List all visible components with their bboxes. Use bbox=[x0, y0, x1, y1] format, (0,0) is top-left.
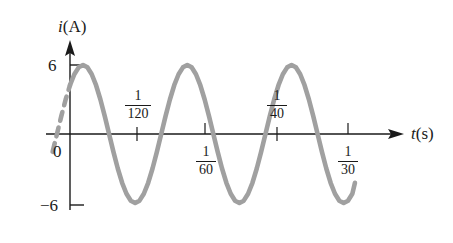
x-tick-label-1-30-numerator: 1 bbox=[338, 145, 358, 160]
x-tick-label-1-120-denominator: 120 bbox=[125, 107, 151, 122]
y-tick-label-0: 0 bbox=[53, 143, 62, 160]
y-axis-title: i(A) bbox=[58, 18, 86, 35]
plot-canvas bbox=[0, 0, 453, 243]
x-tick-label-1-40-numerator: 1 bbox=[267, 89, 287, 104]
x-tick-label-1-40: 1 40 bbox=[267, 89, 287, 121]
x-tick-label-1-40-denominator: 40 bbox=[267, 107, 287, 122]
x-axis-title: t(s) bbox=[411, 125, 434, 142]
y-tick-label-minus-6: −6 bbox=[40, 197, 58, 214]
x-tick-label-1-60: 1 60 bbox=[196, 145, 216, 177]
y-axis-title-unit: (A) bbox=[63, 17, 87, 36]
current-waveform-figure: i(A) t(s) 6 0 −6 1 120 1 60 1 40 1 30 bbox=[0, 0, 453, 243]
x-axis-title-unit: (s) bbox=[416, 124, 434, 143]
x-tick-label-1-30-denominator: 30 bbox=[338, 163, 358, 178]
x-tick-label-1-120: 1 120 bbox=[125, 89, 151, 121]
x-axis bbox=[46, 129, 404, 139]
x-tick-label-1-60-numerator: 1 bbox=[196, 145, 216, 160]
x-tick-label-1-60-denominator: 60 bbox=[196, 163, 216, 178]
x-tick-label-1-120-numerator: 1 bbox=[125, 89, 151, 104]
y-tick-label-6: 6 bbox=[48, 57, 57, 74]
x-tick-label-1-30: 1 30 bbox=[338, 145, 358, 177]
